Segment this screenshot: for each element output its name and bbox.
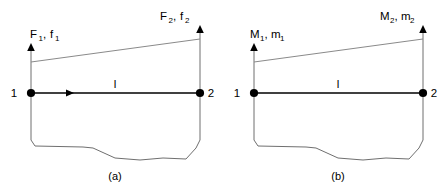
panel-a-node2-load-symbol: F	[160, 10, 167, 22]
panel-b-node1-load-small-subscript: 1	[280, 34, 285, 43]
panel-b-node1-arrowhead-up	[250, 43, 258, 51]
panel-b-node2-load-small-subscript: 2	[410, 16, 415, 25]
panel-a-node2-load-small-subscript: 2	[185, 16, 190, 25]
panel-b-node1-load-symbol: M	[250, 28, 260, 40]
panel-a-node1-dot	[27, 89, 35, 97]
panel-a-node2-arrowhead-up	[196, 25, 204, 33]
panel-b-node2-load-separator: ,	[395, 10, 398, 22]
panel-b-node1-load-separator: ,	[265, 28, 268, 40]
panel-a-node1-load-label: F 1 , f 1	[30, 28, 60, 43]
panel-b-caption: (b)	[331, 170, 344, 182]
panel-a-node2-load-symbol-small: f	[180, 10, 184, 22]
panel-b-break-line	[254, 140, 423, 160]
panel-b-node2-load-symbol: M	[380, 10, 390, 22]
panel-b-node2-dot	[419, 89, 427, 97]
panel-a-axial-arrowhead	[66, 89, 74, 96]
panel-b-node1-dot	[250, 89, 258, 97]
panel-a-length-label: l	[114, 78, 117, 90]
panel-b-node1-label: 1	[234, 87, 240, 99]
panel-a: 1 2 l F 1 , f 1 F 2 , f 2 (a)	[11, 10, 214, 182]
panel-a-node1-label: 1	[11, 87, 17, 99]
panel-b-node1-load-label: M 1 , m 1	[250, 28, 285, 43]
panel-a-node2-load-label: F 2 , f 2	[160, 10, 190, 25]
panel-b-length-label: l	[337, 78, 340, 90]
panel-b: 1 2 l M 1 , m 1 M 2 , m 2 (b)	[234, 10, 437, 182]
panel-a-node2-label: 2	[208, 87, 214, 99]
panel-a-node2-dot	[196, 89, 204, 97]
panel-a-node1-load-separator: ,	[43, 28, 46, 40]
panel-a-break-line	[31, 140, 200, 160]
panel-b-node2-load-label: M 2 , m 2	[380, 10, 415, 25]
panel-a-node1-arrowhead-up	[27, 43, 35, 51]
panel-a-node1-load-symbol-small: f	[50, 28, 54, 40]
panel-b-node2-label: 2	[431, 87, 437, 99]
beam-diagram-svg: 1 2 l F 1 , f 1 F 2 , f 2 (a)	[0, 0, 447, 193]
panel-a-node1-load-small-subscript: 1	[55, 34, 60, 43]
panel-b-node2-arrowhead-up	[419, 25, 427, 33]
panel-a-node2-load-separator: ,	[173, 10, 176, 22]
figure-root: 1 2 l F 1 , f 1 F 2 , f 2 (a)	[0, 0, 447, 193]
panel-a-node1-load-symbol: F	[30, 28, 37, 40]
panel-a-caption: (a)	[108, 170, 121, 182]
